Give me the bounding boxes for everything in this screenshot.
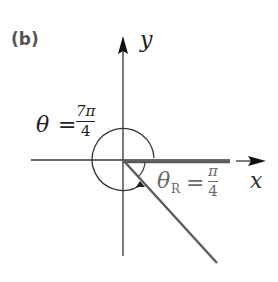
theta-ref-symbol: θ bbox=[157, 168, 170, 193]
theta-ref-equals: = bbox=[186, 170, 204, 195]
theta-ref-denominator: 4 bbox=[208, 184, 218, 199]
theta-ref-numerator: π bbox=[208, 164, 218, 179]
theta-ref-subscript: R bbox=[171, 182, 180, 196]
theta-equals: = bbox=[58, 112, 76, 137]
theta-ref-fraction: π 4 bbox=[208, 164, 218, 199]
angle-diagram bbox=[0, 0, 278, 282]
y-axis-label: y bbox=[140, 27, 152, 52]
theta-symbol: θ bbox=[36, 112, 49, 137]
theta-denominator: 4 bbox=[81, 124, 91, 139]
theta-fraction: 7π 4 bbox=[76, 104, 95, 139]
x-axis-label: x bbox=[250, 168, 262, 193]
reference-angle-arc bbox=[139, 162, 145, 176]
theta-numerator: 7π bbox=[76, 104, 95, 119]
